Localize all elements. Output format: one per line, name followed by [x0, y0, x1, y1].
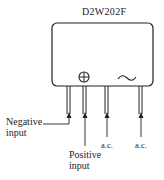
positive-leader-arrow	[83, 112, 88, 146]
pin-negative	[67, 86, 70, 114]
ac1-label: a.c.	[101, 140, 113, 150]
pin-ac1	[105, 86, 108, 114]
part-number-title: D2W202F	[82, 7, 126, 17]
ac2-label: a.c.	[135, 140, 147, 150]
negative-input-label-line1: Negative	[6, 117, 42, 127]
positive-input-label-line1: Positive	[69, 150, 101, 160]
component-body	[52, 23, 153, 86]
ac-symbol-icon	[118, 76, 136, 81]
ac1-leader-arrow	[105, 112, 110, 137]
negative-input-label-line2: input	[6, 128, 27, 138]
pin-ac2	[139, 86, 142, 114]
positive-input-label-line2: input	[69, 161, 90, 171]
ac2-leader-arrow	[139, 112, 144, 137]
pin-positive	[83, 86, 86, 114]
positive-symbol-icon	[79, 72, 89, 82]
